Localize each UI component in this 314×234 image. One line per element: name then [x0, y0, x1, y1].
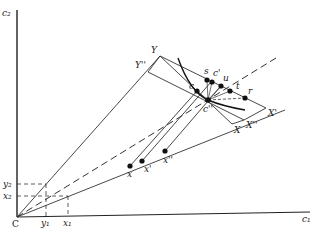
point-c	[194, 88, 199, 93]
tick-y1: y₁	[40, 218, 50, 228]
label-x1: x'	[144, 164, 152, 174]
label-r: r	[248, 86, 253, 96]
label-c: c	[189, 81, 194, 91]
point-s	[204, 77, 209, 82]
label-Y: Y	[151, 45, 158, 55]
label-u: u	[223, 73, 229, 83]
label-x: x	[127, 169, 132, 179]
line-c2-s	[207, 80, 208, 100]
point-x1	[139, 158, 144, 163]
label-t: t	[236, 81, 240, 91]
point-c1	[209, 79, 214, 84]
line-X2-X	[232, 120, 244, 124]
label-Y2: Y''	[135, 60, 146, 70]
point-u	[218, 83, 223, 88]
line-Y-Y2	[148, 56, 160, 72]
point-x2	[162, 148, 167, 153]
line-Y2-X2	[148, 72, 244, 120]
line-X1-X2	[244, 108, 266, 120]
point-t	[227, 88, 232, 93]
point-c2	[205, 97, 211, 103]
y-axis-label: c₂	[2, 8, 11, 18]
point-r	[242, 95, 247, 100]
x-axis	[17, 212, 310, 217]
label-c1: c'	[213, 68, 221, 78]
tick-x1: x₁	[63, 218, 72, 228]
ray-to-Y	[17, 56, 160, 217]
label-X: X	[233, 125, 241, 135]
label-x2: x''	[163, 155, 173, 165]
tick-y2: y₂	[2, 179, 12, 189]
label-c2: c''	[203, 104, 213, 114]
tick-x2: x₂	[3, 191, 12, 201]
x-axis-label: c₁	[302, 214, 311, 224]
line-c2-r-dashed	[208, 98, 245, 100]
origin-label: C	[12, 219, 19, 229]
line-c2-t	[208, 91, 230, 100]
label-s: s	[204, 66, 209, 76]
point-x	[127, 163, 132, 168]
edgeworth-box-diagram: c₂ c₁ C y₁ x₁ y₂ x₂ Y Y'' X X' X'' c s c…	[0, 0, 314, 234]
label-X2: X''	[245, 120, 257, 130]
label-X1: X'	[267, 108, 277, 118]
